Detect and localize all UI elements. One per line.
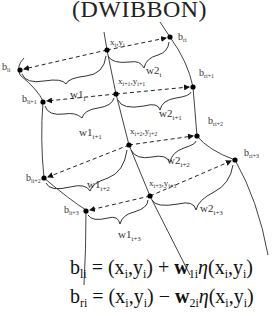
- right-point: [194, 133, 199, 138]
- points: [17, 34, 237, 213]
- svg-text:xi+1,yi+1: xi+1,yi+1: [118, 76, 145, 87]
- center-point: [113, 91, 118, 96]
- svg-text:bri+1: bri+1: [199, 67, 214, 79]
- svg-text:bli: bli: [2, 61, 11, 73]
- svg-text:xi+2,yj+2: xi+2,yj+2: [130, 126, 157, 137]
- right-point-labels: bri bri+1 bri+2 bri+3: [178, 31, 259, 159]
- right-point: [232, 157, 237, 162]
- equation-right-boundary: bri = (xi,yi) − w2iη(xi,yi): [70, 285, 254, 311]
- svg-text:w2i: w2i: [146, 64, 161, 79]
- center-point: [147, 193, 152, 198]
- svg-text:w2i+2: w2i+2: [167, 154, 190, 169]
- left-point: [17, 67, 22, 72]
- svg-text:bri+2: bri+2: [208, 115, 223, 127]
- equation-left-boundary: bli = (xi,yi) + w1iη(xi,yi): [70, 256, 253, 282]
- svg-text:bli+1: bli+1: [22, 93, 37, 105]
- left-point: [83, 208, 88, 213]
- svg-text:xi,yi: xi,yi: [110, 37, 125, 48]
- left-point: [41, 175, 46, 180]
- right-point: [190, 84, 195, 89]
- right-point: [167, 34, 172, 39]
- svg-text:w2i+1: w2i+1: [159, 107, 182, 122]
- svg-text:w2i+3: w2i+3: [200, 202, 223, 217]
- left-point-labels: bli bli+1 bli+2 bli+3: [2, 61, 79, 216]
- svg-text:bri+3: bri+3: [244, 147, 259, 159]
- svg-text:xi+3,yj+3: xi+3,yj+3: [149, 178, 176, 189]
- right-boundary-curve: [160, 22, 268, 255]
- left-point: [40, 99, 45, 104]
- normal-lines: [24, 38, 231, 210]
- svg-text:bli+3: bli+3: [64, 204, 79, 216]
- center-point: [104, 47, 109, 52]
- svg-text:w1i: w1i: [70, 88, 85, 103]
- svg-text:bli+2: bli+2: [26, 172, 41, 184]
- svg-text:bri: bri: [178, 31, 187, 43]
- svg-text:w1i+3: w1i+3: [118, 228, 141, 243]
- center-point: [126, 142, 131, 147]
- svg-text:w1i+1: w1i+1: [79, 126, 102, 141]
